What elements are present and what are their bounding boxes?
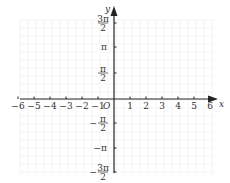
x-tick-label: 3 (159, 101, 165, 111)
x-tick-label: 5 (191, 101, 197, 111)
x-tick-label: −5 (27, 101, 41, 111)
background-grid (20, 20, 214, 175)
svg-text:−: − (89, 167, 97, 177)
svg-text:−π: −π (94, 143, 108, 153)
svg-text:2: 2 (100, 172, 106, 182)
y-tick-label: 3π2 (97, 14, 109, 33)
y-axis-label: y (104, 4, 111, 14)
y-axis-arrow-icon (111, 6, 118, 16)
origin-label: O (103, 101, 111, 111)
x-axis: −6−5−4−3−2−1123456 x (11, 96, 224, 112)
x-tick-label: −4 (43, 101, 57, 111)
x-tick-label: −3 (59, 101, 73, 111)
x-tick-label: 2 (143, 101, 149, 111)
coordinate-plane: −6−5−4−3−2−1123456 x 3π2ππ2π2−−π3π2− y O (0, 0, 230, 183)
y-tick-label: π2 (98, 64, 108, 83)
x-tick-label: 6 (207, 101, 213, 111)
x-tick-label: 1 (127, 101, 133, 111)
y-tick-label: −π (94, 143, 108, 153)
y-tick-label: π (101, 42, 107, 52)
y-axis: 3π2ππ2π2−−π3π2− y (89, 4, 117, 182)
x-tick-label: −6 (11, 101, 25, 111)
svg-text:π: π (101, 42, 107, 52)
svg-text:−: − (89, 118, 97, 128)
x-tick-label: 4 (175, 101, 181, 111)
svg-text:2: 2 (100, 23, 106, 33)
x-tick-label: −2 (75, 101, 88, 111)
svg-text:2: 2 (100, 123, 106, 133)
svg-text:2: 2 (100, 73, 106, 83)
x-axis-label: x (219, 99, 224, 109)
axes-diagram: −6−5−4−3−2−1123456 x 3π2ππ2π2−−π3π2− y O (0, 0, 230, 183)
